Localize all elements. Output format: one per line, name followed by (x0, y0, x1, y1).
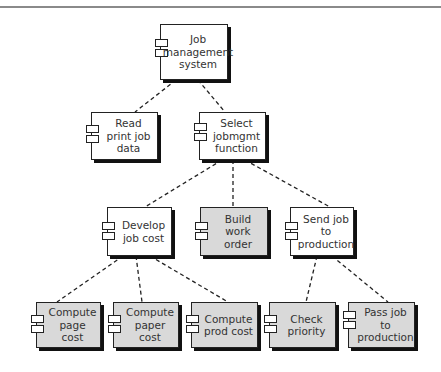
node-label: Send job to production (301, 208, 351, 255)
component-tab-icon (343, 311, 356, 319)
node-read-print-job-data[interactable]: Read print job data (91, 112, 158, 160)
edge-develop-paper (136, 256, 142, 302)
component-tab-icon (264, 325, 277, 333)
edge-select-send (245, 160, 330, 207)
edge-develop-page (57, 256, 123, 302)
node-compute-page-cost[interactable]: Compute page cost (36, 302, 101, 348)
edge-root-read (135, 80, 176, 112)
node-develop-job-cost[interactable]: Develop job cost (107, 207, 172, 256)
node-label: Compute page cost (47, 303, 98, 347)
component-tab-icon (195, 232, 208, 240)
component-tab-icon (195, 222, 208, 230)
node-build-work-order[interactable]: Build work order (200, 207, 268, 256)
node-label: Compute paper cost (124, 303, 176, 347)
component-tab-icon (108, 315, 121, 323)
component-tab-icon (86, 125, 99, 133)
edge-develop-prod (150, 256, 228, 302)
component-tab-icon (86, 135, 99, 143)
component-tab-icon (264, 315, 277, 323)
component-tab-icon (343, 321, 356, 329)
component-tab-icon (31, 325, 44, 333)
edge-select-develop (145, 160, 222, 207)
node-label: Job management system (171, 25, 225, 79)
component-tab-icon (108, 325, 121, 333)
component-tab-icon (31, 315, 44, 323)
node-compute-paper-cost[interactable]: Compute paper cost (113, 302, 179, 348)
edge-root-select (198, 80, 225, 112)
edge-send-check (306, 256, 317, 302)
node-label: Read print job data (102, 113, 155, 159)
component-tab-icon (102, 232, 115, 240)
component-tab-icon (285, 232, 298, 240)
node-label: Develop job cost (118, 208, 169, 255)
node-job-management-system[interactable]: Job management system (160, 24, 228, 80)
component-tab-icon (285, 222, 298, 230)
component-tab-icon (194, 123, 207, 131)
component-tab-icon (102, 222, 115, 230)
node-send-job-to-production[interactable]: Send job to production (290, 207, 354, 256)
component-tab-icon (194, 133, 207, 141)
node-label: Pass job to production (359, 303, 412, 347)
node-label: Check priority (280, 303, 333, 347)
node-check-priority[interactable]: Check priority (269, 302, 336, 348)
node-compute-prod-cost[interactable]: Compute prod cost (191, 302, 258, 348)
node-label: Compute prod cost (202, 303, 255, 347)
node-label: Select jobmgmt function (210, 113, 263, 159)
component-tab-icon (186, 325, 199, 333)
node-label: Build work order (211, 208, 265, 255)
node-select-jobmgmt-function[interactable]: Select jobmgmt function (199, 112, 266, 160)
component-tab-icon (186, 315, 199, 323)
edge-send-pass (332, 256, 388, 302)
node-pass-job-to-production[interactable]: Pass job to production (348, 302, 415, 348)
